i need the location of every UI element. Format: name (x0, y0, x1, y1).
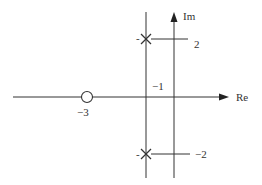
bottom-im-label: −2 (195, 148, 207, 160)
imag-axis-label: Im (183, 10, 196, 22)
top-pole-dash: - (136, 32, 140, 44)
pole-zero-diagram: Re Im −1 - 2 - −2 −3 (0, 0, 262, 185)
zero-label: −3 (77, 106, 89, 118)
imag-axis-arrow-icon (171, 12, 178, 22)
zero-marker-icon (82, 92, 93, 103)
real-axis-label: Re (236, 91, 248, 103)
top-im-label: 2 (194, 38, 200, 50)
bottom-pole-dash: - (136, 148, 140, 160)
real-axis-arrow-icon (219, 94, 229, 101)
vline-label: −1 (152, 80, 164, 92)
